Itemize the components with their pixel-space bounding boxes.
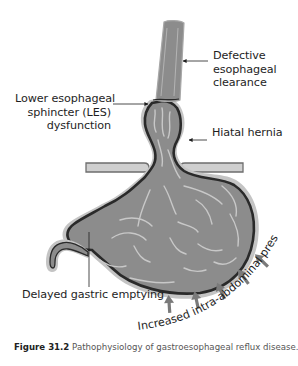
gerd-figure: Increased intra-abdominal pressure Defec…	[0, 0, 298, 366]
label-defective-clearance: Defective esophageal clearance	[213, 49, 277, 90]
label-les-dysfunction: Lower esophageal sphincter (LES) dysfunc…	[15, 92, 111, 133]
figure-caption: Figure 31.2 Pathophysiology of gastroeso…	[14, 342, 298, 352]
esophagus	[153, 21, 184, 102]
diaphragm-left	[86, 163, 149, 172]
les-junction	[153, 99, 179, 100]
caption-text: Pathophysiology of gastroesophageal refl…	[72, 342, 298, 352]
figure-number: Figure 31.2	[14, 342, 69, 352]
label-delayed-gastric-emptying: Delayed gastric emptying	[22, 288, 164, 302]
label-hiatal-hernia: Hiatal hernia	[212, 126, 282, 140]
